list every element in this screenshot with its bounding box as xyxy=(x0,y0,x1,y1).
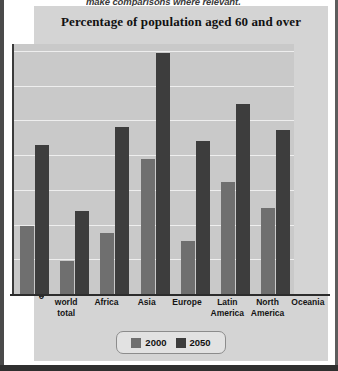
gridline xyxy=(14,155,294,156)
bar xyxy=(115,127,129,294)
bar xyxy=(100,233,114,294)
bar xyxy=(236,104,250,294)
x-axis-line xyxy=(10,294,330,296)
scan-edge-bottom xyxy=(0,365,338,371)
x-axis-label: Oceania xyxy=(284,297,332,308)
plot-area xyxy=(0,44,294,294)
bar xyxy=(196,141,210,294)
legend-item: 2000 xyxy=(131,337,166,348)
plot-panel xyxy=(12,44,294,294)
bar xyxy=(276,130,290,294)
bar xyxy=(75,211,89,294)
bar xyxy=(181,241,195,294)
legend-swatch xyxy=(131,338,141,348)
gridline xyxy=(14,51,294,52)
bar xyxy=(221,182,235,294)
legend-label: 2050 xyxy=(190,337,211,348)
scan-edge-left xyxy=(0,0,4,371)
bar xyxy=(141,159,155,294)
bar xyxy=(261,208,275,294)
bar xyxy=(20,226,34,294)
chart-title: Percentage of population aged 60 and ove… xyxy=(34,14,328,30)
legend-swatch xyxy=(176,338,186,348)
scanned-page: make comparisons where relevant. Percent… xyxy=(0,0,338,371)
x-axis-labels: world totalAfricaAsiaEuropeLatin America… xyxy=(46,297,330,323)
bar xyxy=(35,145,49,294)
bar xyxy=(156,53,170,294)
gridline xyxy=(14,120,294,121)
gridline xyxy=(14,86,294,87)
bar xyxy=(60,261,74,294)
chart-legend: 20002050 xyxy=(116,331,226,354)
legend-item: 2050 xyxy=(176,337,211,348)
legend-label: 2000 xyxy=(145,337,166,348)
